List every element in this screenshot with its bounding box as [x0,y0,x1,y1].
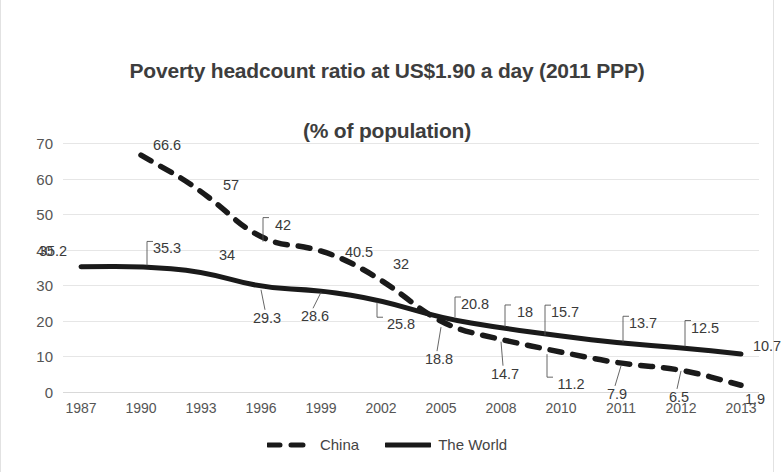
leader-line [437,327,441,351]
data-label-china-1999: 40.5 [345,244,373,259]
dashed-line-icon [267,440,313,450]
y-tick-label-60: 60 [15,172,53,187]
plot-area: 66.6574240.53218.814.711.27.96.51.935.23… [63,143,759,392]
y-tick-label-30: 30 [15,278,53,293]
x-tick-label-1990: 1990 [125,400,156,416]
y-tick-label-10: 10 [15,349,53,364]
solid-line-icon [385,440,431,450]
data-label-the-world-2013: 10.7 [753,338,781,353]
leader-line [615,366,621,386]
x-tick-label-2008: 2008 [485,400,516,416]
gridline-0 [63,392,759,393]
x-tick-label-1999: 1999 [305,400,336,416]
data-label-china-2008: 14.7 [491,366,519,381]
data-label-the-world-2010: 15.7 [551,305,579,320]
series-line-the-world [81,267,741,354]
leader-line [501,342,503,366]
x-tick-label-2011: 2011 [606,400,636,416]
leader-line [261,290,265,310]
x-tick-label-2010: 2010 [545,400,576,416]
leader-line [505,305,511,327]
leader-line [313,292,321,308]
x-tick-label-1987: 1987 [65,400,96,416]
x-tick-label-1996: 1996 [245,400,276,416]
x-tick-label-2002: 2002 [365,400,396,416]
data-label-the-world-1999: 28.6 [301,309,329,324]
data-label-the-world-2011: 13.7 [629,316,657,331]
data-label-the-world-1990: 35.3 [153,241,181,256]
y-tick-label-20: 20 [15,314,53,329]
leader-line [547,354,553,377]
chart-legend: ChinaThe World [1,437,773,453]
legend-item-the-world[interactable]: The World [385,437,507,453]
data-label-the-world-1993: 34 [219,248,235,263]
data-label-the-world-2008: 18 [517,304,533,319]
legend-label: The World [438,437,507,453]
data-label-the-world-2002: 25.8 [387,317,415,332]
data-label-china-2002: 32 [393,257,409,272]
data-label-the-world-2012: 12.5 [691,320,719,335]
x-tick-label-1993: 1993 [185,400,216,416]
x-tick-label-2013: 2013 [725,400,756,416]
data-label-the-world-1987: 35.2 [39,243,67,258]
legend-item-china[interactable]: China [267,437,359,453]
legend-label: China [320,437,359,453]
y-tick-label-0: 0 [15,385,53,400]
chart-title-line-2: (% of population) [1,116,773,146]
leader-line [377,302,383,317]
x-tick-label-2012: 2012 [665,400,696,416]
leader-line [677,371,681,389]
y-tick-label-70: 70 [15,136,53,151]
y-axis: 010203040506070 [9,143,53,392]
data-label-the-world-1996: 29.3 [253,310,281,325]
data-label-china-1990: 66.6 [153,138,181,153]
data-label-china-2010: 11.2 [557,377,584,392]
x-axis: 1987199019931996199920022005200820102011… [63,399,759,419]
data-label-the-world-2005: 20.8 [461,297,489,312]
data-label-china-1996: 42 [275,217,291,232]
data-label-china-1993: 57 [223,178,239,193]
series-layer [63,143,759,392]
chart-title-line-1: Poverty headcount ratio at US$1.90 a day… [1,56,773,86]
x-tick-label-2005: 2005 [425,400,456,416]
y-tick-label-50: 50 [15,207,53,222]
data-label-china-2005: 18.8 [425,352,453,367]
